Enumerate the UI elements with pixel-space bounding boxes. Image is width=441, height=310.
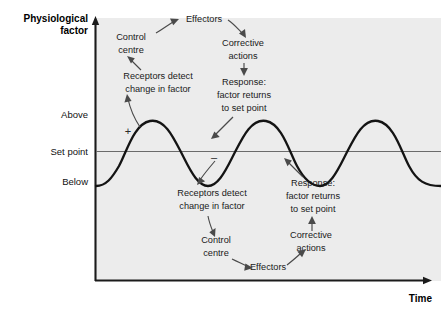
lower-control-centre-line2: centre bbox=[203, 248, 229, 258]
plot-area-background bbox=[96, 18, 441, 281]
lower-response-line1: Response: bbox=[291, 178, 335, 188]
upper-control-centre-line1: Control bbox=[116, 32, 146, 42]
upper-effectors: Effectors bbox=[186, 14, 222, 24]
y-tick-above: Above bbox=[61, 109, 88, 120]
lower-receptors-line2: change in factor bbox=[179, 201, 244, 211]
x-axis-title: Time bbox=[409, 293, 433, 304]
lower-corrective-line1: Corrective bbox=[290, 230, 332, 240]
upper-control-centre-line2: centre bbox=[118, 45, 144, 55]
y-tick-below: Below bbox=[62, 176, 88, 187]
upper-corrective-line2: actions bbox=[228, 51, 258, 61]
figure-root: Above Set point Below Physiological fact… bbox=[0, 0, 441, 310]
positive-sign: + bbox=[125, 125, 131, 137]
upper-receptors-line1: Receptors detect bbox=[123, 71, 193, 81]
lower-effectors: Effectors bbox=[250, 262, 286, 272]
lower-receptors-line1: Receptors detect bbox=[177, 188, 247, 198]
upper-receptors-line2: change in factor bbox=[125, 84, 190, 94]
y-axis-title-line1: Physiological bbox=[24, 13, 89, 24]
upper-response-line2: factor returns bbox=[217, 90, 272, 100]
y-axis-title-line2: factor bbox=[60, 25, 88, 36]
lower-response-line3: to set point bbox=[291, 204, 336, 214]
lower-control-centre-line1: Control bbox=[201, 235, 231, 245]
y-tick-set-point: Set point bbox=[51, 146, 89, 157]
upper-corrective-line1: Corrective bbox=[222, 38, 264, 48]
upper-response-line1: Response: bbox=[222, 77, 266, 87]
upper-response-line3: to set point bbox=[222, 103, 267, 113]
lower-response-line2: factor returns bbox=[286, 191, 341, 201]
homeostasis-negative-feedback-diagram: Above Set point Below Physiological fact… bbox=[0, 0, 441, 310]
